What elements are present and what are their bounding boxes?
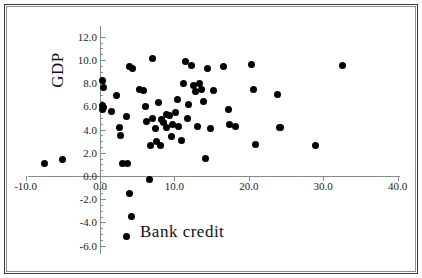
y-tick-minor [100, 72, 103, 73]
data-point [100, 84, 107, 91]
y-tick-minor [100, 205, 103, 206]
data-point [113, 92, 120, 99]
data-point [312, 142, 319, 149]
data-point [157, 142, 164, 149]
y-tick-label: 10.0 [78, 54, 97, 66]
data-point [232, 123, 239, 130]
y-tick-minor [100, 95, 103, 96]
y-tick-minor [100, 141, 103, 142]
data-point [149, 55, 156, 62]
y-tick [100, 246, 106, 247]
data-point [168, 133, 175, 140]
data-point [178, 137, 185, 144]
data-point [41, 160, 48, 167]
x-tick-label: 30.0 [314, 180, 333, 192]
data-point [180, 80, 187, 87]
y-tick-label: -4.0 [80, 216, 97, 228]
data-point [175, 123, 182, 130]
data-point [129, 65, 136, 72]
data-point [99, 106, 106, 113]
data-point [124, 160, 131, 167]
data-point [220, 63, 227, 70]
y-tick-minor [100, 170, 103, 171]
y-tick-label: 8.0 [83, 77, 97, 89]
data-point [188, 62, 195, 69]
data-point [277, 124, 284, 131]
y-tick-label: 4.0 [83, 124, 97, 136]
data-point [108, 108, 115, 115]
data-point [185, 101, 192, 108]
y-tick-label: -2.0 [80, 193, 97, 205]
data-point [128, 213, 135, 220]
data-point [116, 124, 123, 131]
data-point [200, 98, 207, 105]
y-tick-minor [100, 164, 103, 165]
data-point [146, 176, 153, 183]
y-tick [100, 60, 106, 61]
y-tick-label: 2.0 [83, 147, 97, 159]
data-point [184, 115, 191, 122]
y-tick-minor [100, 228, 103, 229]
data-point [225, 106, 232, 113]
x-axis-title: Bank credit [140, 222, 224, 242]
data-point [126, 190, 133, 197]
data-point [59, 156, 66, 163]
data-point [117, 132, 124, 139]
data-point [339, 62, 346, 69]
y-tick-minor [100, 118, 103, 119]
y-tick [100, 37, 106, 38]
y-tick-label: 6.0 [83, 100, 97, 112]
y-tick-minor [100, 240, 103, 241]
y-tick-label: -6.0 [80, 240, 97, 252]
data-point [140, 87, 147, 94]
data-point [248, 61, 255, 68]
y-tick [100, 222, 106, 223]
data-point [123, 113, 130, 120]
data-point [174, 96, 181, 103]
data-point [198, 86, 205, 93]
figure-container: -10.00.010.020.030.040.0 12.010.08.06.04… [0, 0, 422, 278]
data-point [149, 115, 156, 122]
data-point [155, 99, 162, 106]
data-point [123, 233, 130, 240]
y-tick-minor [100, 159, 103, 160]
data-point [207, 125, 214, 132]
y-tick-minor [100, 66, 103, 67]
data-point [204, 65, 211, 72]
scatter-plot: -10.00.010.020.030.040.0 12.010.08.06.04… [0, 0, 422, 278]
y-tick [100, 130, 106, 131]
x-tick-label: 40.0 [388, 180, 407, 192]
y-tick-minor [100, 193, 103, 194]
y-tick [100, 153, 106, 154]
y-tick-minor [100, 54, 103, 55]
y-tick-minor [100, 48, 103, 49]
y-tick-minor [100, 124, 103, 125]
y-tick [100, 176, 106, 177]
data-point [202, 155, 209, 162]
data-point [274, 91, 281, 98]
data-point [152, 125, 159, 132]
y-tick-minor [100, 147, 103, 148]
y-tick-minor [100, 43, 103, 44]
y-axis-title: GDP [48, 10, 68, 130]
data-point [172, 109, 179, 116]
y-tick-label: 0.0 [83, 170, 97, 182]
y-tick-minor [100, 217, 103, 218]
y-tick-label: 12.0 [78, 31, 97, 43]
y-tick-minor [100, 211, 103, 212]
y-tick [100, 199, 106, 200]
x-tick-label: 20.0 [239, 180, 258, 192]
x-tick-label: 10.0 [165, 180, 184, 192]
y-tick-minor [100, 135, 103, 136]
data-point [142, 103, 149, 110]
x-tick-label: -10.0 [14, 180, 37, 192]
data-point [194, 123, 201, 130]
y-tick-minor [100, 234, 103, 235]
data-point [252, 141, 259, 148]
data-point [250, 86, 257, 93]
data-point [210, 87, 217, 94]
